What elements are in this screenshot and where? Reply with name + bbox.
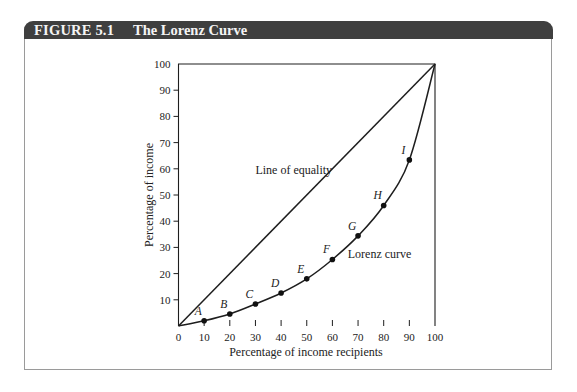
data-point-marker [201, 318, 207, 324]
x-tick-label: 70 [353, 331, 365, 343]
chart-series [179, 64, 436, 326]
y-tick-label: 30 [160, 241, 172, 253]
data-point-marker [355, 233, 361, 239]
x-axis-label: Percentage of income recipients [229, 345, 383, 359]
point-label: F [322, 243, 331, 255]
data-point-marker [278, 290, 284, 296]
y-tick-label: 80 [160, 110, 172, 122]
data-point-marker [227, 311, 233, 317]
point-label: G [348, 220, 357, 232]
data-point-marker [407, 157, 413, 163]
y-tick-label: 100 [154, 58, 171, 70]
x-tick-label: 40 [276, 331, 288, 343]
chart-labels: ABCDEFGHILine of equalityLorenz curve [194, 144, 412, 317]
x-tick-label: 10 [199, 331, 211, 343]
data-point-marker [253, 301, 259, 307]
point-label: D [270, 277, 280, 289]
annotation: Lorenz curve [348, 247, 412, 261]
y-tick-label: 60 [160, 163, 172, 175]
x-tick-label: 20 [224, 331, 236, 343]
point-label: E [296, 263, 304, 275]
data-point-marker [304, 276, 310, 282]
data-point-marker [330, 257, 336, 263]
annotation: Line of equality [255, 163, 332, 177]
point-label: H [373, 189, 383, 201]
data-point-marker [381, 203, 387, 209]
x-tick-label: 0 [176, 331, 182, 343]
x-tick-label: 80 [378, 331, 390, 343]
y-tick-label: 90 [160, 84, 172, 96]
x-tick-label: 30 [250, 331, 262, 343]
point-label: C [246, 288, 254, 300]
lorenz-chart: 1020304050607080901000102030405060708090… [0, 0, 577, 392]
x-tick-label: 90 [404, 331, 416, 343]
y-tick-label: 10 [160, 294, 172, 306]
y-tick-label: 50 [160, 189, 172, 201]
x-tick-label: 50 [301, 331, 313, 343]
y-tick-label: 20 [160, 268, 172, 280]
line-of-equality [179, 64, 436, 326]
y-axis-label: Percentage of income [142, 143, 156, 247]
axis-ticks: 1020304050607080901000102030405060708090… [154, 58, 444, 343]
y-tick-label: 40 [160, 215, 172, 227]
x-tick-label: 100 [427, 331, 444, 343]
data-points [201, 157, 412, 323]
y-tick-label: 70 [160, 137, 172, 149]
point-label: I [400, 144, 406, 156]
point-label: B [220, 298, 227, 310]
point-label: A [194, 305, 203, 317]
x-tick-label: 60 [327, 331, 339, 343]
